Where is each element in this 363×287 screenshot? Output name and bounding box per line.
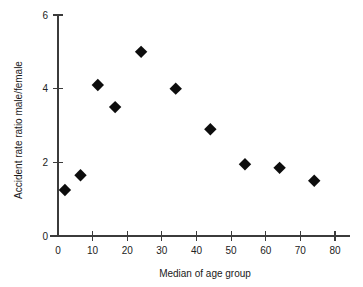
data-point (273, 162, 285, 174)
data-series-markers (59, 46, 321, 197)
data-point (109, 101, 121, 113)
x-axis-title: Median of age group (159, 268, 251, 279)
data-point (92, 79, 104, 91)
data-point (59, 184, 71, 196)
y-tick-label: 6 (42, 10, 48, 21)
y-axis: 0246 (42, 10, 63, 242)
y-tick-label: 4 (42, 83, 48, 94)
x-tick-label: 10 (87, 245, 99, 256)
x-tick-label: 20 (122, 245, 134, 256)
data-point (204, 123, 216, 135)
data-point (170, 82, 182, 94)
x-tick-label: 80 (329, 245, 341, 256)
scatter-chart-figure: 0246 01020304050607080 Median of age gro… (0, 0, 363, 287)
data-point (239, 158, 251, 170)
x-tick-label: 60 (260, 245, 272, 256)
x-tick-label: 70 (295, 245, 307, 256)
data-point (74, 169, 86, 181)
y-tick-label: 2 (42, 157, 48, 168)
x-axis: 01020304050607080 (50, 231, 350, 256)
x-tick-label: 50 (226, 245, 238, 256)
y-tick-label: 0 (42, 231, 48, 242)
x-tick-label: 30 (156, 245, 168, 256)
data-point (135, 46, 147, 58)
data-point (308, 175, 320, 187)
y-axis-title: Accident rate ratio male/female (13, 61, 24, 199)
x-tick-label: 0 (55, 245, 61, 256)
x-tick-label: 40 (191, 245, 203, 256)
plot-area: 0246 01020304050607080 Median of age gro… (0, 0, 363, 287)
